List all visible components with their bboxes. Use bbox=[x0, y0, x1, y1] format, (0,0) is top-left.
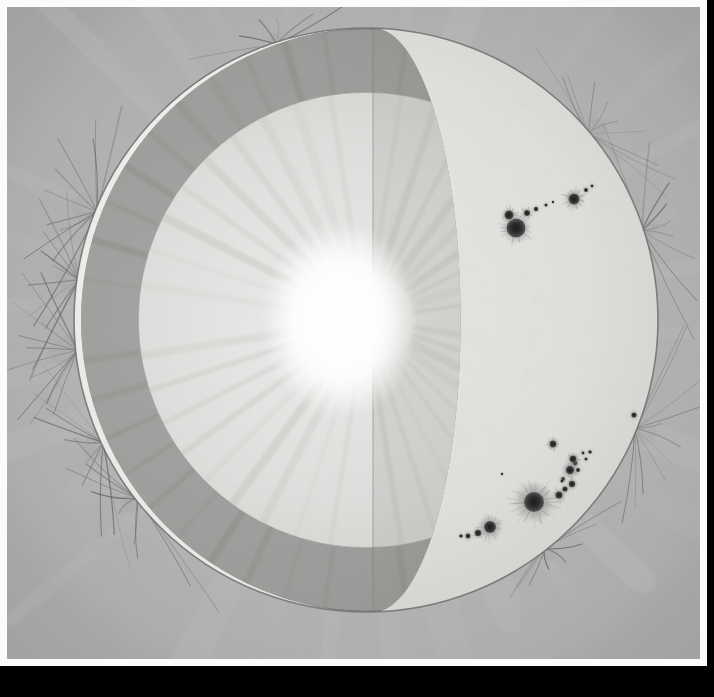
figure-stage: Cutaway illustration of the Sun Core Rad… bbox=[0, 0, 714, 697]
illustration-plate: Cutaway illustration of the Sun Core Rad… bbox=[7, 7, 700, 659]
plate-mount: Cutaway illustration of the Sun Core Rad… bbox=[0, 0, 707, 666]
sun-cutaway-illustration bbox=[7, 7, 700, 659]
paper-grain bbox=[7, 7, 700, 659]
